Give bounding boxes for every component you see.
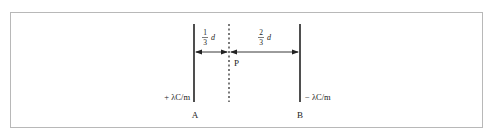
plate-a-label: A bbox=[192, 110, 199, 120]
plate-a-charge-label: + λC/m bbox=[164, 92, 190, 102]
arrowhead-right-icon bbox=[292, 50, 299, 55]
arrowhead-left-icon bbox=[230, 50, 237, 55]
right-fraction-denominator: 3 bbox=[259, 38, 263, 47]
right-fraction-numerator: 2 bbox=[259, 28, 263, 37]
left-fraction-variable: d bbox=[211, 33, 216, 42]
left-fraction-numerator: 1 bbox=[203, 28, 207, 37]
charged-lines-diagram: 1 3 d 2 3 d P + λC/m − λC/m A B bbox=[0, 0, 492, 132]
left-fraction-denominator: 3 bbox=[203, 38, 207, 47]
right-fraction-variable: d bbox=[267, 33, 272, 42]
plate-b-label: B bbox=[297, 110, 303, 120]
arrowhead-left-icon bbox=[195, 50, 202, 55]
arrowhead-right-icon bbox=[221, 50, 228, 55]
point-p-label: P bbox=[234, 58, 239, 68]
plate-b-charge-label: − λC/m bbox=[305, 92, 331, 102]
